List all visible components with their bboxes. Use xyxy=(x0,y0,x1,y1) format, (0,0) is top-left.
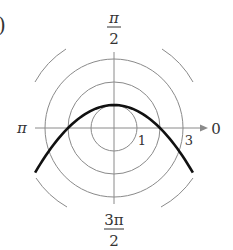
angle-label-bottom-num: 3π xyxy=(104,211,124,229)
radius-label-3: 3 xyxy=(185,133,193,148)
angle-label-top-den: 2 xyxy=(109,30,119,48)
axis-arrow-icon xyxy=(200,125,208,132)
grid-arc-r4-se xyxy=(161,178,193,207)
figure-label-partial: ) xyxy=(0,13,6,37)
angle-label-top-num: π xyxy=(108,9,120,27)
grid-arc-r4-sw xyxy=(36,178,67,207)
radius-label-1: 1 xyxy=(138,133,146,148)
angle-label-bottom: 3π 2 xyxy=(104,211,124,250)
angle-label-right: 0 xyxy=(211,120,221,138)
axes xyxy=(35,52,200,204)
angle-label-left: π xyxy=(16,119,28,137)
polar-graph: ) π 2 3π 2 π 0 1 3 xyxy=(0,0,233,250)
grid-arc-r4-ne xyxy=(162,49,193,82)
grid-arc-r4-nw xyxy=(35,49,66,82)
angle-label-bottom-den: 2 xyxy=(109,232,119,250)
angle-label-top: π 2 xyxy=(107,9,121,48)
